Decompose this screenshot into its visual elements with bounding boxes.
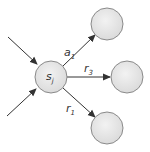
node-bottom: [91, 112, 123, 144]
edge-label-r1-sub: 1: [71, 109, 75, 117]
edge-label-r1: r1: [66, 102, 75, 117]
edge-label-a1: a1: [64, 46, 75, 61]
node-top: [91, 8, 123, 40]
edge-label-r3: r3: [84, 62, 93, 77]
incoming-edge-1: [8, 37, 37, 64]
edge-label-r3-sub: 3: [89, 69, 93, 77]
node-middle: [111, 61, 143, 93]
node-s-j-label-sub: j: [51, 77, 54, 85]
state-diagram: sj a1 r3 r1: [0, 0, 150, 152]
edge-label-a1-sub: 1: [71, 53, 75, 61]
incoming-edge-2: [7, 89, 36, 116]
